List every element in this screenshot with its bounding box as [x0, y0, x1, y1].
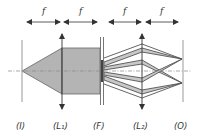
label-input-plane: (I): [16, 121, 25, 131]
focal-label-2: f: [78, 6, 84, 16]
focal-label-1: f: [41, 6, 47, 16]
label-lens-l2: (L₂): [133, 121, 148, 131]
focal-label-3: f: [122, 6, 128, 16]
label-filter-plane: (F): [93, 121, 105, 131]
optical-diagram: f f f f (I) (L₁) (F) (L₂) (O): [0, 0, 199, 138]
filter-plane-icon: [101, 37, 104, 105]
label-output-plane: (O): [174, 121, 187, 131]
focal-label-4: f: [159, 6, 165, 16]
label-lens-l1: (L₁): [53, 121, 68, 131]
